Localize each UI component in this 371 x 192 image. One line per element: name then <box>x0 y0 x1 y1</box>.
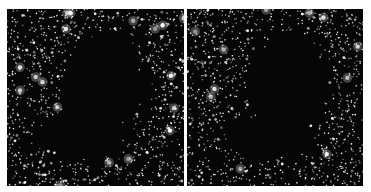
star-field-panel-left <box>7 9 184 186</box>
star-field-image-right <box>187 9 363 186</box>
star-field-panel-right <box>187 9 363 186</box>
star-field-image-left <box>7 9 184 186</box>
